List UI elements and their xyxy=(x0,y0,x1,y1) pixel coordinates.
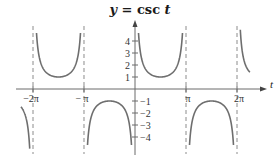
y-tick-label: 4 xyxy=(125,36,130,47)
branch-minus-2pi-to-minus-pi xyxy=(37,33,81,77)
y-tick-label: −4 xyxy=(140,132,151,143)
branch-right-partial xyxy=(240,30,250,72)
branch-minus-pi-to-0 xyxy=(88,101,132,145)
y-tick-label: −3 xyxy=(140,120,151,131)
title-eq: = csc xyxy=(117,2,165,17)
y-tick-label: 2 xyxy=(125,60,130,71)
x-tick-label: −2π xyxy=(23,93,39,104)
y-tick-label: 1 xyxy=(125,72,130,83)
branch-0-to-pi xyxy=(139,33,183,77)
y-tick-label: 3 xyxy=(125,48,130,59)
title-var: t xyxy=(165,2,171,17)
y-tick-label: −2 xyxy=(140,108,151,119)
chart-title: y = csc t xyxy=(108,2,170,17)
y-tick-label: −1 xyxy=(140,96,151,107)
branch-left-partial xyxy=(21,107,30,149)
x-tick-label: π xyxy=(185,93,190,104)
y-axis-arrow-icon xyxy=(133,20,138,27)
x-tick-label: 2π xyxy=(234,93,244,104)
csc-chart: y = csc t t −2π− ππ2π4321−1−2−3−4 xyxy=(0,0,280,163)
branch-pi-to-2pi xyxy=(190,101,234,145)
x-axis-label: t xyxy=(270,78,274,90)
x-tick-label: − π xyxy=(75,93,88,104)
x-axis-arrow-icon xyxy=(260,87,267,92)
